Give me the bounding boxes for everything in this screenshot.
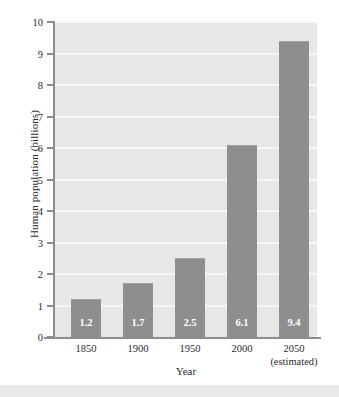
bar-value-label: 1.7 <box>123 317 153 328</box>
bar-2000[interactable]: 6.1 <box>227 145 257 337</box>
y-tick-label: 6 <box>0 143 43 154</box>
y-tick-mark <box>47 53 54 55</box>
y-tick-label: 2 <box>0 269 43 280</box>
gridline <box>55 179 317 181</box>
bar-1850[interactable]: 1.2 <box>71 299 101 337</box>
y-tick-mark <box>47 242 54 244</box>
y-tick-mark <box>47 84 54 86</box>
chart-page: Human population (billions) 1.2 1.7 2.5 … <box>0 0 339 397</box>
y-tick-label: 0 <box>0 332 43 343</box>
y-tick-label: 10 <box>0 17 43 28</box>
y-tick-label: 3 <box>0 237 43 248</box>
y-tick-label: 1 <box>0 300 43 311</box>
y-tick-mark <box>47 273 54 275</box>
y-tick-label: 4 <box>0 206 43 217</box>
bar-value-label: 6.1 <box>227 317 257 328</box>
bar-2050[interactable]: 9.4 <box>279 41 309 337</box>
gridline <box>55 147 317 149</box>
y-tick-mark <box>47 179 54 181</box>
bar-value-label: 1.2 <box>71 317 101 328</box>
gridline <box>55 21 317 23</box>
bar-value-label: 9.4 <box>279 317 309 328</box>
y-tick-mark <box>47 305 54 307</box>
gridline <box>55 84 317 86</box>
y-tick-label: 7 <box>0 111 43 122</box>
gridline <box>55 53 317 55</box>
gridline <box>55 242 317 244</box>
bar-value-label: 2.5 <box>175 317 205 328</box>
bottom-band <box>0 385 339 397</box>
y-tick-mark <box>47 116 54 118</box>
y-tick-label: 8 <box>0 80 43 91</box>
x-axis-line <box>44 337 321 339</box>
y-tick-mark <box>47 147 54 149</box>
x-axis-title: Year <box>55 365 317 377</box>
y-tick-mark <box>47 210 54 212</box>
gridline <box>55 116 317 118</box>
y-tick-mark <box>47 336 54 338</box>
plot-area: 1.2 1.7 2.5 6.1 9.4 <box>55 22 317 337</box>
x-tick-label-text: 2050 <box>284 343 305 354</box>
y-tick-label: 5 <box>0 174 43 185</box>
y-tick-mark <box>47 21 54 23</box>
bar-1900[interactable]: 1.7 <box>123 283 153 337</box>
gridline <box>55 210 317 212</box>
y-tick-label: 9 <box>0 48 43 59</box>
bar-1950[interactable]: 2.5 <box>175 258 205 337</box>
